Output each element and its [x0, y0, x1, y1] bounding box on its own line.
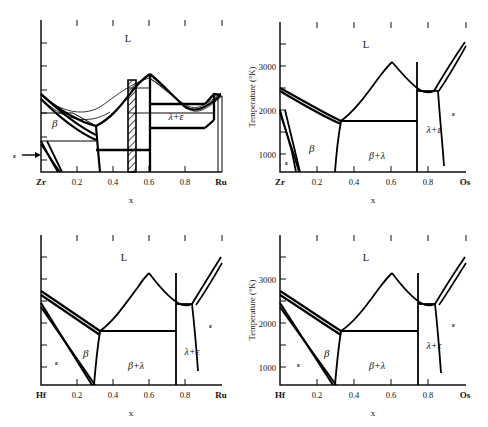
xtick-3: 0.8 [180, 390, 191, 400]
beta-lambda-label: β+λ [368, 150, 386, 161]
ytick-1: 2000 [259, 319, 276, 329]
left-element-label: Hf [36, 390, 47, 400]
epsilon-label-right: ε [209, 322, 212, 330]
xtick-1: 0.4 [349, 390, 360, 400]
epsilon-label-left: ε [285, 159, 288, 167]
xtick-0: 0.2 [312, 390, 323, 400]
epsilon-label-right: ε [452, 321, 455, 329]
phase-diagram-zr-ru: ε L β λ+ε Zr 0.2 0.4 0.6 0.8 Ru x [0, 0, 244, 214]
panel-zr-ru: ε L β λ+ε Zr 0.2 0.4 0.6 0.8 Ru x [0, 0, 244, 214]
right-element-label: Ru [215, 177, 227, 187]
ytick-0: 1000 [259, 363, 276, 373]
liquid-label: L [125, 33, 131, 44]
beta-label: β [51, 117, 58, 129]
beta-lambda-label: β+λ [368, 360, 386, 371]
xtick-2: 0.6 [386, 390, 397, 400]
y-axis-title: Temperature (°K) [247, 279, 257, 340]
panel-hf-os: L β β+λ λ+ε ε ε 3000 2000 1000 Temperatu… [244, 213, 488, 427]
beta-lambda-label: β+λ [127, 360, 145, 371]
lambda-epsilon-label: λ+ε [167, 111, 183, 122]
ytick-0: 1000 [259, 150, 276, 160]
liquid-label: L [363, 252, 369, 263]
xtick-2: 0.6 [386, 177, 397, 187]
beta-label: β [323, 347, 330, 359]
curves-zr-ru [41, 74, 222, 172]
liquid-label: L [121, 252, 127, 263]
right-element-label: Os [460, 177, 471, 187]
ytick-1: 2000 [259, 106, 276, 116]
epsilon-label-left: ε [297, 361, 300, 369]
panel-zr-os: L β β+λ λ+ε ε ε 3000 2000 1000 Temperatu… [244, 0, 488, 214]
x-axis-title: x [371, 195, 376, 205]
left-element-label: Zr [275, 177, 285, 187]
xtick-2: 0.6 [144, 390, 155, 400]
lambda-epsilon-label: λ+ε [425, 340, 441, 351]
phase-diagram-hf-os: L β β+λ λ+ε ε ε 3000 2000 1000 Temperatu… [244, 213, 488, 427]
right-element-label: Os [460, 390, 471, 400]
x-axis-title: x [129, 408, 134, 418]
ytick-2: 3000 [259, 275, 276, 285]
beta-label: β [308, 142, 315, 154]
xtick-1: 0.4 [349, 177, 360, 187]
x-axis-title: x [129, 195, 134, 205]
y-axis-title: Temperature (°K) [247, 66, 257, 127]
xtick-0: 0.2 [72, 390, 83, 400]
phase-diagram-hf-ru: L β β+λ λ+ε ε ε Hf 0.2 0.4 0.6 0.8 Ru x [0, 213, 244, 427]
epsilon-arrow-zr-ru [22, 152, 41, 158]
beta-label: β [82, 347, 89, 359]
right-element-label: Ru [215, 390, 227, 400]
xtick-0: 0.2 [312, 177, 323, 187]
lambda-epsilon-label: λ+ε [425, 124, 441, 135]
xtick-3: 0.8 [423, 390, 434, 400]
panel-hf-ru: L β β+λ λ+ε ε ε Hf 0.2 0.4 0.6 0.8 Ru x [0, 213, 244, 427]
xtick-1: 0.4 [108, 390, 119, 400]
xtick-0: 0.2 [72, 177, 83, 187]
left-element-label: Hf [275, 390, 286, 400]
x-axis-title: x [371, 408, 376, 418]
xtick-2: 0.6 [144, 177, 155, 187]
epsilon-label-left: ε [13, 152, 16, 160]
xtick-3: 0.8 [180, 177, 191, 187]
xtick-1: 0.4 [108, 177, 119, 187]
ytick-2: 3000 [259, 62, 276, 72]
epsilon-label-right: ε [452, 110, 455, 118]
xtick-3: 0.8 [423, 177, 434, 187]
hatched-region-zr-ru [128, 80, 136, 172]
liquid-label: L [363, 39, 369, 50]
phase-diagram-zr-os: L β β+λ λ+ε ε ε 3000 2000 1000 Temperatu… [244, 0, 488, 214]
lambda-epsilon-label: λ+ε [183, 346, 199, 357]
epsilon-label-left: ε [55, 359, 58, 367]
left-element-label: Zr [36, 177, 46, 187]
